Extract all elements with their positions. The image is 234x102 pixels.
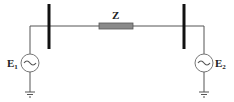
ground-icon [25, 92, 35, 97]
impedance-element [99, 23, 133, 29]
source-e1-label: E1 [7, 57, 18, 71]
circuit-diagram: Z E1 E2 [0, 0, 234, 102]
diagram-canvas: Z E1 E2 [0, 0, 234, 102]
source-e2-label: E2 [215, 57, 226, 71]
impedance-label: Z [112, 9, 119, 21]
ground-icon [199, 92, 209, 97]
